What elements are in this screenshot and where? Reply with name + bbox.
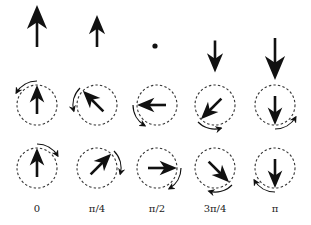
spin-arrow-up-icon [27, 5, 47, 47]
phase-label-0: 0 [17, 203, 57, 214]
spin-arrow-up-icon [89, 15, 105, 47]
magnetization-arrow-icon [196, 93, 227, 124]
clockwise-rotation-arrow-icon [37, 144, 58, 156]
phase-label-3pi-4: 3π/4 [195, 203, 235, 214]
magnetization-arrow-icon [137, 98, 166, 113]
phase-label-pi-4: π/4 [77, 203, 117, 214]
magnetization-arrow-icon [85, 149, 116, 180]
clockwise-rotation-arrow-icon [169, 168, 181, 189]
diagram-canvas [0, 0, 311, 225]
phase-label-pi-2: π/2 [137, 203, 177, 214]
spin-arrow-down-icon [207, 41, 223, 73]
magnetization-arrow-icon [30, 85, 45, 114]
counterclockwise-rotation-arrow-icon [198, 122, 221, 129]
magnetization-arrow-icon [268, 159, 283, 188]
spin-rotation-diagram: 0 π/4 π/2 3π/4 π [0, 0, 311, 225]
counterclockwise-rotation-arrow-icon [275, 117, 296, 129]
counterclockwise-rotation-arrow-icon [73, 88, 80, 111]
clockwise-rotation-arrow-icon [254, 180, 275, 192]
magnetization-arrow-icon [148, 161, 177, 176]
magnetization-arrow-icon [78, 86, 109, 117]
clockwise-rotation-arrow-icon [209, 185, 232, 192]
clockwise-rotation-arrow-icon [114, 151, 121, 174]
magnetization-arrow-icon [30, 148, 45, 177]
counterclockwise-rotation-arrow-icon [133, 105, 145, 126]
phase-label-pi: π [255, 203, 295, 214]
spin-dot-icon [152, 43, 157, 48]
counterclockwise-rotation-arrow-icon [16, 81, 37, 93]
magnetization-arrow-icon [203, 156, 234, 187]
magnetization-arrow-icon [268, 96, 283, 125]
spin-arrow-down-icon [265, 38, 285, 80]
